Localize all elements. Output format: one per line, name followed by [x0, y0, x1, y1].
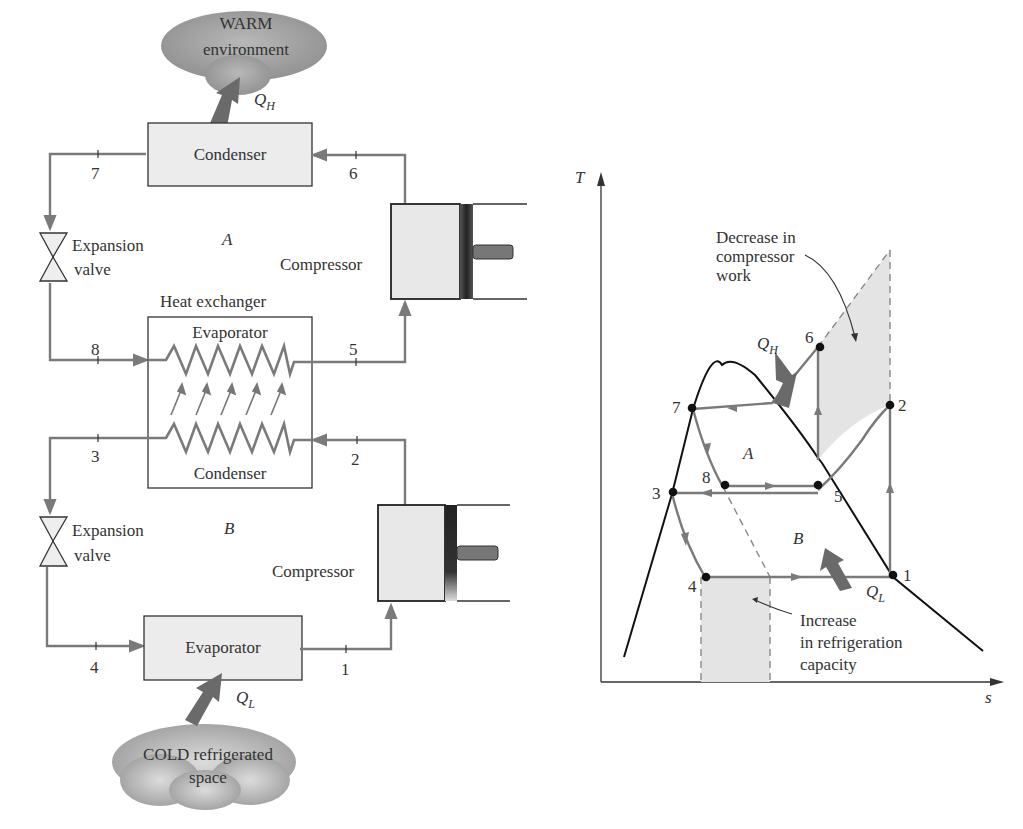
ts-cycle-a: A [743, 444, 753, 463]
annotation-capacity-line3: capacity [800, 655, 857, 674]
ql-label-schematic: QL [236, 688, 255, 709]
upper-condenser-label: Condenser [148, 145, 312, 164]
ts-y-axis-label: T [575, 168, 584, 187]
ts-point-4: 4 [688, 577, 697, 596]
ts-cycle-b: B [793, 529, 803, 548]
lower-valve-label-line1: Expansion [72, 521, 144, 540]
hx-evaporator-label: Evaporator [148, 323, 312, 342]
state-4-label: 4 [90, 658, 99, 677]
lower-expansion-valve-icon [40, 517, 67, 566]
annotation-work-line2: compressor [716, 247, 794, 266]
ts-point-8: 8 [702, 468, 711, 487]
ts-point-5: 5 [834, 487, 843, 506]
warm-environment-label-line2: environment [186, 40, 306, 59]
upper-expansion-valve-icon [40, 233, 67, 281]
state-8-label: 8 [91, 340, 100, 359]
lower-compressor-icon [378, 505, 510, 601]
cold-space-label-line1: COLD refrigerated [118, 745, 298, 764]
annotation-work-line1: Decrease in [716, 228, 796, 247]
cycle-a-label-schematic: A [222, 230, 232, 249]
ts-point-7: 7 [672, 398, 681, 417]
heat-in-arrow [185, 673, 222, 726]
cycle-b-label-schematic: B [224, 519, 234, 538]
ts-diagram [597, 172, 1004, 686]
upper-compressor-label: Compressor [280, 255, 362, 274]
cascade-diagram-graphics [0, 0, 1023, 829]
hx-condenser-label: Condenser [148, 464, 312, 483]
state-6-label: 6 [349, 164, 358, 183]
ts-point-3: 3 [652, 484, 661, 503]
upper-valve-label-line1: Expansion [72, 236, 144, 255]
annotation-work-line3: work [716, 266, 751, 285]
annotation-capacity-line1: Increase [800, 611, 857, 630]
lower-evaporator-label: Evaporator [144, 638, 302, 657]
cold-space-label-line2: space [158, 768, 258, 787]
ts-point-6: 6 [805, 328, 814, 347]
lower-compressor-label: Compressor [272, 562, 354, 581]
heat-exchanger-box [148, 317, 312, 488]
state-2-label: 2 [351, 450, 360, 469]
state-1-label: 1 [341, 660, 350, 679]
state-5-label: 5 [349, 340, 358, 359]
qh-label-ts: QH [757, 334, 778, 355]
heat-exchanger-label: Heat exchanger [160, 292, 266, 311]
ts-point-2: 2 [898, 396, 907, 415]
qh-label-schematic: QH [254, 90, 275, 111]
warm-environment-label-line1: WARM [206, 14, 286, 33]
annotation-capacity-line2: in refrigeration [800, 633, 902, 652]
ts-x-axis-label: s [985, 688, 992, 707]
lower-valve-label-line2: valve [74, 546, 111, 565]
ql-label-ts: QL [866, 582, 885, 603]
upper-compressor-icon [391, 204, 527, 299]
cold-space-cloud [112, 724, 296, 810]
ts-point-1: 1 [903, 566, 912, 585]
state-3-label: 3 [91, 447, 100, 466]
upper-valve-label-line2: valve [74, 260, 111, 279]
state-7-label: 7 [91, 164, 100, 183]
